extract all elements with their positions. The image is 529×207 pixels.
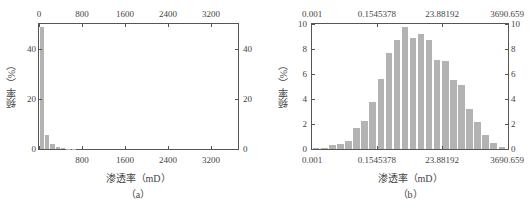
y-tick-left: 10: [293, 20, 307, 29]
histogram-bar: [410, 38, 416, 149]
x-tick-bottom: 3690.659: [482, 156, 529, 165]
y-tick-left: 2: [293, 120, 307, 129]
histogram-bar: [482, 135, 488, 149]
histogram-bar: [466, 109, 472, 149]
tick-mark: [505, 124, 508, 125]
x-tick-bottom: 23.88192: [417, 156, 467, 165]
histogram-bar: [442, 61, 448, 149]
y-axis-label-b: 频率（%）: [276, 60, 291, 108]
histogram-bar: [434, 60, 440, 149]
y-tick-right: 10: [511, 20, 520, 29]
histogram-bar: [378, 79, 384, 149]
tick-mark: [312, 24, 315, 25]
tick-mark: [312, 74, 315, 75]
tick-mark: [505, 49, 508, 50]
histogram-bar: [386, 53, 392, 149]
tick-mark: [505, 24, 508, 25]
tick-mark: [377, 146, 378, 149]
histogram-bar: [474, 122, 480, 149]
histogram-bar: [490, 143, 496, 149]
histogram-bar: [353, 128, 359, 149]
x-tick-bottom: 0.1545378: [352, 156, 402, 165]
tick-mark: [312, 149, 315, 150]
tick-mark: [312, 124, 315, 125]
histogram-bar: [369, 102, 375, 150]
x-tick-top: 0.001: [287, 10, 337, 19]
tick-mark: [442, 146, 443, 149]
tick-mark: [312, 99, 315, 100]
tick-mark: [505, 74, 508, 75]
histogram-bar: [361, 121, 367, 149]
histogram-bar: [337, 144, 343, 149]
panel-label-b: （b）: [390, 186, 430, 201]
histogram-bar: [450, 80, 456, 149]
y-tick-left: 4: [293, 95, 307, 104]
histogram-bar: [458, 85, 464, 149]
y-tick-right: 2: [511, 120, 516, 129]
x-tick-top: 0.1545378: [352, 10, 402, 19]
tick-mark: [312, 49, 315, 50]
histogram-bar: [394, 40, 400, 149]
histogram-bar: [402, 27, 408, 149]
y-tick-right: 0: [511, 145, 516, 154]
tick-mark: [442, 24, 443, 27]
histogram-bar: [499, 147, 505, 149]
x-tick-top: 3690.659: [482, 10, 529, 19]
x-tick-top: 23.88192: [417, 10, 467, 19]
tick-mark: [505, 99, 508, 100]
histogram-bar: [426, 40, 432, 149]
y-tick-left: 8: [293, 45, 307, 54]
tick-mark: [377, 24, 378, 27]
tick-mark: [505, 149, 508, 150]
histogram-bar: [345, 141, 351, 149]
x-axis-label-b: 渗透率（mD）: [370, 170, 450, 185]
y-tick-right: 6: [511, 70, 516, 79]
x-tick-bottom: 0.001: [287, 156, 337, 165]
y-tick-left: 0: [293, 145, 307, 154]
y-tick-left: 6: [293, 70, 307, 79]
plot-area-b: [311, 23, 509, 150]
histogram-bar: [321, 148, 327, 149]
histogram-bar: [418, 34, 424, 149]
y-tick-right: 4: [511, 95, 516, 104]
histogram-bar: [329, 145, 335, 149]
y-tick-right: 8: [511, 45, 516, 54]
